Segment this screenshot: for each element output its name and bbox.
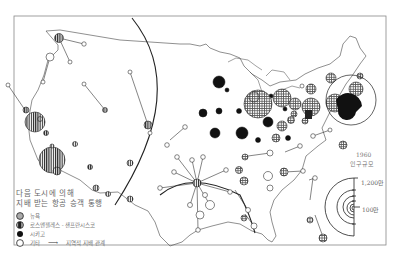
legend-label: 시카고 xyxy=(30,230,45,238)
legend-item-la-sf: 로스앤젤레스 - 샌프란시스코 xyxy=(16,220,166,229)
scale-year: 1960 xyxy=(356,151,371,158)
great-lakes xyxy=(228,58,300,92)
black-circle-icon xyxy=(16,230,24,238)
legend: 다음 도시에 의해 지배 받는 항공 승객 통행 뉴욕 로스앤젤레스 - 샌프란… xyxy=(16,189,166,247)
new-york-metro xyxy=(336,93,362,120)
legend-item-chicago: 시카고 xyxy=(16,229,166,238)
scale-min-label: 100만 xyxy=(362,205,379,214)
legend-item-new-york: 뉴욕 xyxy=(16,211,166,220)
legend-label: 기타 xyxy=(30,239,40,247)
legend-item-other: 기타 ⟶ 지역적 지배 관계 xyxy=(16,238,166,247)
legend-title-line2: 지배 받는 항공 승객 통행 xyxy=(16,199,166,209)
grey-dotted-circle-icon xyxy=(16,212,24,220)
la-sf-metro-cores xyxy=(305,110,312,119)
scale-unit-label: 인구규모 xyxy=(350,159,374,168)
legend-arrow-label: 지역적 지배 관계 xyxy=(66,239,105,247)
legend-title-line1: 다음 도시에 의해 xyxy=(16,189,166,199)
legend-label: 뉴욕 xyxy=(30,212,40,220)
white-circle-icon xyxy=(16,239,24,247)
scale-max-label: 1,200만 xyxy=(361,178,384,187)
vertical-hatched-circle-icon xyxy=(16,221,24,229)
legend-label: 로스앤젤레스 - 샌프란시스코 xyxy=(30,221,95,229)
boundary-west xyxy=(115,18,157,205)
arrow-icon: ⟶ xyxy=(48,239,58,247)
population-scale xyxy=(325,178,360,236)
